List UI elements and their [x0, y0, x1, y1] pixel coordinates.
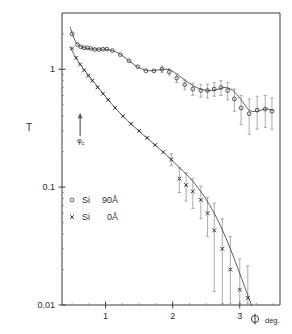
x-tick-label: 1	[103, 311, 108, 321]
legend-material-label: Si	[82, 195, 90, 205]
legend-thickness-label: 90Å	[102, 195, 118, 205]
legend-thickness-label: 0Å	[107, 212, 118, 222]
x-tick-label: 3	[237, 311, 242, 321]
y-tick-label: 0.1	[42, 182, 55, 192]
x-tick-label: 2	[170, 311, 175, 321]
chart-background	[0, 0, 292, 334]
y-tick-label: 0.01	[37, 300, 55, 310]
critical-angle-subscript: c	[82, 140, 85, 146]
y-axis-label: T	[26, 122, 32, 133]
chart-figure: 10.10.01123 T deg. φ c Si90ÅSi0Å	[0, 0, 292, 334]
transmission-vs-angle-chart: 10.10.01123 T deg. φ c Si90ÅSi0Å	[0, 0, 292, 334]
legend-material-label: Si	[82, 212, 90, 222]
y-tick-label: 1	[50, 64, 55, 74]
x-axis-unit-label: deg.	[265, 316, 280, 325]
